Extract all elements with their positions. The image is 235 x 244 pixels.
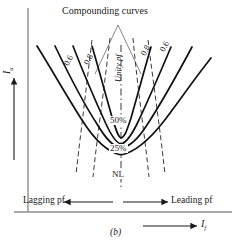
leading-pf-text: Leading pf (171, 195, 212, 205)
pf-unity-label: Unity pf (114, 54, 123, 82)
annotation-title: Compounding curves (62, 6, 148, 16)
figure-caption: (b) (110, 228, 121, 238)
lagging-pf-label: Lagging pf (23, 196, 65, 206)
x-axis-subscript: f (204, 224, 206, 231)
lagging-pf-text: Lagging pf (23, 195, 65, 205)
axis-lines (14, 8, 232, 212)
leading-pf-label: Leading pf (171, 196, 212, 206)
y-axis-symbol: I (1, 71, 12, 74)
load-label-nl: NL (111, 170, 125, 179)
v-curve-50 (55, 46, 192, 148)
load-label-25: 25% (109, 144, 128, 153)
y-axis-label: Ia (2, 67, 15, 74)
y-axis-subscript: a (7, 67, 14, 70)
pf-08-leading-line (133, 38, 149, 177)
x-axis-label: If (201, 219, 206, 232)
load-label-50: 50% (109, 116, 128, 125)
compounding-curves-figure: Compounding curves 0.6 0.8 Unity pf 0.8 … (0, 0, 235, 244)
pf-06-leading-line (148, 40, 165, 174)
